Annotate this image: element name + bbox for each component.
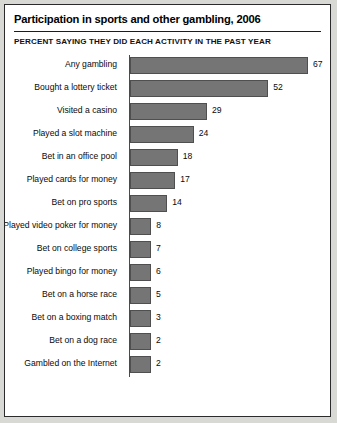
bar <box>130 149 178 166</box>
bar <box>130 218 151 235</box>
bar-row: Played bingo for money6 <box>5 262 330 285</box>
value-label: 52 <box>273 82 283 93</box>
chart-header: Participation in sports and other gambli… <box>5 5 330 46</box>
bar-row: Played a slot machine24 <box>5 124 330 147</box>
value-label: 7 <box>156 243 161 254</box>
chart-subtitle: PERCENT SAYING THEY DID EACH ACTIVITY IN… <box>14 37 321 46</box>
chart-title: Participation in sports and other gambli… <box>14 13 321 26</box>
category-label: Gambled on the Internet <box>4 358 117 369</box>
value-label: 18 <box>183 151 193 162</box>
category-label: Bet on a boxing match <box>4 312 117 323</box>
category-label: Visited a casino <box>4 105 117 116</box>
bar <box>130 310 151 327</box>
category-label: Played video poker for money <box>4 220 117 231</box>
bar-row: Bought a lottery ticket52 <box>5 78 330 101</box>
chart-figure: Participation in sports and other gambli… <box>4 4 331 417</box>
bar <box>130 356 151 373</box>
value-label: 8 <box>156 220 161 231</box>
value-label: 2 <box>156 335 161 346</box>
bar <box>130 241 151 258</box>
value-label: 14 <box>172 197 182 208</box>
category-label: Bought a lottery ticket <box>4 82 117 93</box>
bar <box>130 172 175 189</box>
value-label: 24 <box>199 128 209 139</box>
bar-row: Bet on a dog race2 <box>5 331 330 354</box>
bar-row: Played cards for money17 <box>5 170 330 193</box>
category-label: Played bingo for money <box>4 266 117 277</box>
value-label: 2 <box>156 358 161 369</box>
bar-chart-plot: Any gambling67Bought a lottery ticket52V… <box>5 55 330 395</box>
title-divider <box>14 31 321 32</box>
bar <box>130 333 151 350</box>
bar <box>130 264 151 281</box>
value-label: 3 <box>156 312 161 323</box>
bar-row: Bet in an office pool18 <box>5 147 330 170</box>
bar <box>130 57 308 74</box>
category-label: Played cards for money <box>4 174 117 185</box>
category-label: Bet in an office pool <box>4 151 117 162</box>
value-label: 67 <box>313 59 323 70</box>
value-label: 6 <box>156 266 161 277</box>
bar <box>130 195 167 212</box>
bar-row: Any gambling67 <box>5 55 330 78</box>
category-label: Bet on pro sports <box>4 197 117 208</box>
bar-row: Visited a casino29 <box>5 101 330 124</box>
bar-row: Bet on a boxing match3 <box>5 308 330 331</box>
bar <box>130 126 194 143</box>
category-label: Bet on a horse race <box>4 289 117 300</box>
category-label: Bet on a dog race <box>4 335 117 346</box>
bar-row: Bet on a horse race5 <box>5 285 330 308</box>
value-label: 29 <box>212 105 222 116</box>
value-label: 17 <box>180 174 190 185</box>
category-label: Played a slot machine <box>4 128 117 139</box>
bar <box>130 103 207 120</box>
bar-row: Gambled on the Internet2 <box>5 354 330 377</box>
bar-row: Played video poker for money8 <box>5 216 330 239</box>
category-label: Bet on college sports <box>4 243 117 254</box>
bar <box>130 287 151 304</box>
bar-row: Bet on pro sports14 <box>5 193 330 216</box>
value-label: 5 <box>156 289 161 300</box>
category-label: Any gambling <box>4 59 117 70</box>
bar-series: Any gambling67Bought a lottery ticket52V… <box>5 55 330 377</box>
bar-row: Bet on college sports7 <box>5 239 330 262</box>
bar <box>130 80 268 97</box>
